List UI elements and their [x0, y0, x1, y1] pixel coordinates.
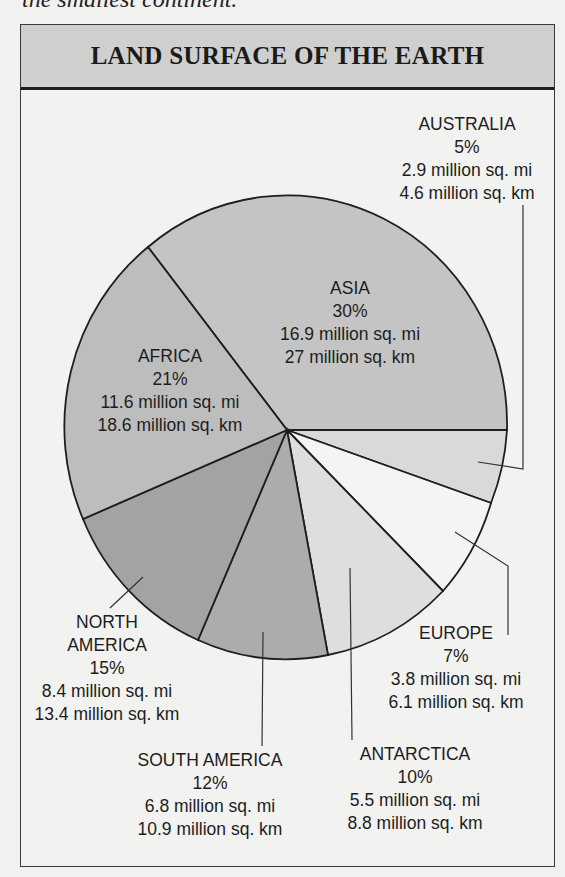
label-north-america-name-2: AMERICA [22, 634, 192, 657]
label-australia-pct: 5% [372, 136, 562, 159]
label-australia: AUSTRALIA 5% 2.9 million sq. mi 4.6 mill… [372, 113, 562, 205]
label-europe-name: EUROPE [356, 622, 556, 645]
label-asia-pct: 30% [250, 300, 450, 323]
label-south-america-pct: 12% [110, 772, 310, 795]
label-europe-mi: 3.8 million sq. mi [356, 668, 556, 691]
label-australia-name: AUSTRALIA [372, 113, 562, 136]
label-south-america: SOUTH AMERICA 12% 6.8 million sq. mi 10.… [110, 749, 310, 841]
label-antarctica-name: ANTARCTICA [315, 743, 515, 766]
label-south-america-mi: 6.8 million sq. mi [110, 795, 310, 818]
label-australia-mi: 2.9 million sq. mi [372, 159, 562, 182]
label-africa-km: 18.6 million sq. km [70, 414, 270, 437]
label-europe: EUROPE 7% 3.8 million sq. mi 6.1 million… [356, 622, 556, 714]
label-africa-pct: 21% [70, 368, 270, 391]
label-asia-name: ASIA [250, 277, 450, 300]
label-antarctica-pct: 10% [315, 766, 515, 789]
label-north-america: NORTH AMERICA 15% 8.4 million sq. mi 13.… [22, 611, 192, 726]
label-north-america-name-1: NORTH [22, 611, 192, 634]
label-africa-mi: 11.6 million sq. mi [70, 391, 270, 414]
label-north-america-km: 13.4 million sq. km [22, 703, 192, 726]
label-antarctica-km: 8.8 million sq. km [315, 812, 515, 835]
label-antarctica: ANTARCTICA 10% 5.5 million sq. mi 8.8 mi… [315, 743, 515, 835]
label-north-america-pct: 15% [22, 657, 192, 680]
label-south-america-km: 10.9 million sq. km [110, 818, 310, 841]
label-south-america-name: SOUTH AMERICA [110, 749, 310, 772]
label-asia: ASIA 30% 16.9 million sq. mi 27 million … [250, 277, 450, 369]
label-north-america-mi: 8.4 million sq. mi [22, 680, 192, 703]
label-asia-km: 27 million sq. km [250, 346, 450, 369]
label-africa: AFRICA 21% 11.6 million sq. mi 18.6 mill… [70, 345, 270, 437]
label-africa-name: AFRICA [70, 345, 270, 368]
label-europe-km: 6.1 million sq. km [356, 691, 556, 714]
label-antarctica-mi: 5.5 million sq. mi [315, 789, 515, 812]
label-asia-mi: 16.9 million sq. mi [250, 323, 450, 346]
label-europe-pct: 7% [356, 645, 556, 668]
label-australia-km: 4.6 million sq. km [372, 182, 562, 205]
